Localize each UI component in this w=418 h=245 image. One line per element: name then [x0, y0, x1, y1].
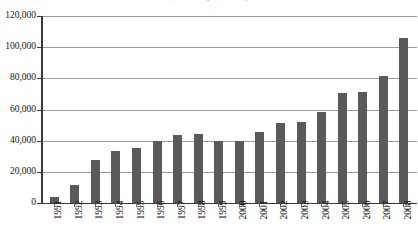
y-tick-label: 0 [31, 198, 36, 208]
x-label-slot: 1999 [209, 208, 230, 245]
y-tick-label: 60,000 [10, 105, 36, 115]
x-tick-label: 1992 [75, 201, 85, 220]
x-label-slot: 1991 [44, 208, 65, 245]
x-label-slot: 2008 [394, 208, 415, 245]
bar-slot [352, 16, 373, 203]
x-tick-label: 1993 [95, 201, 105, 220]
bar [358, 92, 367, 203]
y-tick-label: 100,000 [5, 42, 36, 52]
bar [276, 123, 285, 203]
bar-slot [126, 16, 147, 203]
bar [235, 141, 244, 203]
x-tick-label: 2004 [322, 201, 332, 220]
bar-slot [291, 16, 312, 203]
bar-slot [394, 16, 415, 203]
x-label-slot: 2007 [373, 208, 394, 245]
bar [297, 122, 306, 203]
x-tick-label: 1991 [54, 201, 64, 220]
x-tick-label: 1998 [198, 201, 208, 220]
x-label-slot: 2001 [250, 208, 271, 245]
y-tick-label: 40,000 [10, 136, 36, 146]
bar-slot [188, 16, 209, 203]
bar [111, 151, 120, 203]
bar [91, 160, 100, 203]
y-tick-label: 120,000 [5, 11, 36, 21]
y-tick-label: 80,000 [10, 74, 36, 84]
bar-slot [311, 16, 332, 203]
x-label-slot: 1996 [147, 208, 168, 245]
x-tick-label: 2002 [280, 201, 290, 220]
bar-slot [44, 16, 65, 203]
x-label-slot: 2000 [229, 208, 250, 245]
x-label-slot: 1997 [167, 208, 188, 245]
x-label-slot: 1992 [65, 208, 86, 245]
bar [255, 132, 264, 203]
x-tick-label: 2005 [342, 201, 352, 220]
x-tick-label: 2008 [404, 201, 414, 220]
bar [194, 134, 203, 203]
y-tick-label: 20,000 [10, 167, 36, 177]
bar-slot [85, 16, 106, 203]
bar [153, 141, 162, 203]
x-axis-tick-labels: 1991199219931994199519961997199819992000… [41, 208, 417, 245]
bar-slot [106, 16, 127, 203]
bars-layer [41, 16, 417, 203]
bar-slot [332, 16, 353, 203]
bar [132, 148, 141, 203]
bar [379, 76, 388, 203]
bar-slot [147, 16, 168, 203]
x-tick-label: 2000 [239, 201, 249, 220]
bar [317, 112, 326, 203]
bar-slot [270, 16, 291, 203]
bar-slot [167, 16, 188, 203]
x-tick-label: 1995 [137, 201, 147, 220]
x-label-slot: 2002 [270, 208, 291, 245]
x-tick-label: 1996 [157, 201, 167, 220]
bar-slot [209, 16, 230, 203]
y-axis-tick-labels: 020,00040,00060,00080,000100,000120,000 [0, 0, 41, 245]
x-label-slot: 2003 [291, 208, 312, 245]
bar-slot [65, 16, 86, 203]
x-label-slot: 2005 [332, 208, 353, 245]
bar [399, 38, 408, 203]
x-tick-label: 2007 [383, 201, 393, 220]
bar [214, 141, 223, 203]
bar [338, 93, 347, 203]
x-tick-label: 1994 [116, 201, 126, 220]
x-label-slot: 1998 [188, 208, 209, 245]
chart-title: (number of accounts) [0, 0, 418, 1]
x-tick-label: 1997 [178, 201, 188, 220]
x-tick-label: 2001 [260, 201, 270, 220]
bar-chart-figure: (number of accounts) 020,00040,00060,000… [0, 0, 418, 245]
plot-area [41, 16, 417, 203]
bar-slot [229, 16, 250, 203]
x-tick-label: 2006 [363, 201, 373, 220]
x-label-slot: 2004 [311, 208, 332, 245]
x-label-slot: 2006 [352, 208, 373, 245]
x-label-slot: 1993 [85, 208, 106, 245]
x-tick-label: 1999 [219, 201, 229, 220]
bar-slot [373, 16, 394, 203]
x-label-slot: 1995 [126, 208, 147, 245]
x-tick-label: 2003 [301, 201, 311, 220]
x-label-slot: 1994 [106, 208, 127, 245]
bar-slot [250, 16, 271, 203]
bar [173, 135, 182, 203]
